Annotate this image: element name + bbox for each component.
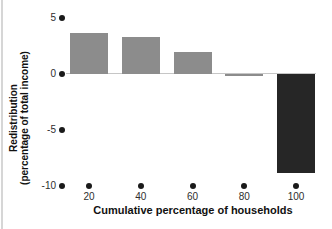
bar-100 xyxy=(277,74,315,173)
y-tick-label-0: 0 xyxy=(22,68,56,80)
chart-plot-area: 50-5-1020406080100 xyxy=(0,0,332,229)
y-tick-dot xyxy=(59,183,65,189)
x-tick-dot xyxy=(241,183,247,189)
x-tick-label-80: 80 xyxy=(226,191,262,202)
x-tick-dot xyxy=(293,183,299,189)
y-tick-dot xyxy=(59,127,65,133)
x-tick-dot xyxy=(138,183,144,189)
x-tick-label-20: 20 xyxy=(71,191,107,202)
bar-20 xyxy=(70,33,108,74)
x-tick-label-100: 100 xyxy=(278,191,314,202)
redistribution-bar-chart-figure: Redistribution (percentage of total inco… xyxy=(0,0,332,229)
x-tick-dot xyxy=(190,183,196,189)
y-tick-dot xyxy=(59,71,65,77)
bar-40 xyxy=(122,37,160,74)
x-axis-title: Cumulative percentage of households xyxy=(66,204,320,216)
y-tick-label--5: -5 xyxy=(22,124,56,136)
x-tick-dot xyxy=(86,183,92,189)
y-tick-label--10: -10 xyxy=(22,180,56,192)
bar-80 xyxy=(225,74,263,76)
x-tick-label-60: 60 xyxy=(175,191,211,202)
bar-60 xyxy=(174,52,212,74)
y-tick-dot xyxy=(59,15,65,21)
y-tick-label-5: 5 xyxy=(22,12,56,24)
x-tick-label-40: 40 xyxy=(123,191,159,202)
